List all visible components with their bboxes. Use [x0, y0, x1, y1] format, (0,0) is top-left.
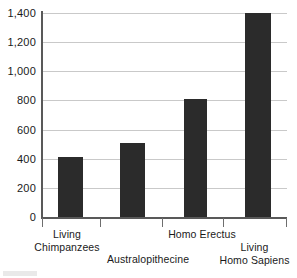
- y-tick-label-1200: 1,200: [0, 37, 36, 48]
- category-label-line-1: Australopithecine: [88, 253, 208, 266]
- y-tick-label-0: 0: [0, 212, 36, 223]
- category-label-line-1: Homo Erectus: [152, 228, 252, 241]
- category-label-living-homo-sapiens: Living Homo Sapiens: [212, 241, 297, 266]
- page-edge-artifact: [3, 271, 37, 276]
- bar-australopithecine: [120, 143, 145, 217]
- x-tick-2: [162, 218, 163, 227]
- x-tick-3: [223, 218, 224, 227]
- y-tick-label-600: 600: [0, 125, 36, 136]
- bar-chart: 1,400 1,200 1,000 800 600 400 200 0: [0, 0, 297, 278]
- y-tick-label-200: 200: [0, 183, 36, 194]
- y-axis-line: [41, 11, 43, 219]
- y-tick-label-800: 800: [0, 95, 36, 106]
- x-tick-1: [100, 218, 101, 227]
- bar-homo-erectus: [184, 99, 207, 217]
- x-tick-0: [42, 218, 43, 227]
- category-label-line-1: Living: [212, 241, 297, 254]
- category-label-homo-erectus: Homo Erectus: [152, 228, 252, 241]
- bar-living-homo-sapiens: [245, 13, 271, 217]
- x-tick-4: [286, 218, 287, 227]
- category-label-australopithecine: Australopithecine: [88, 253, 208, 266]
- bar-living-chimpanzees: [58, 157, 83, 217]
- category-label-living-chimpanzees: Living Chimpanzees: [26, 228, 108, 253]
- y-tick-label-1400: 1,400: [0, 8, 36, 19]
- plot-area: [42, 13, 287, 217]
- x-axis-line: [41, 217, 287, 219]
- y-tick-label-1000: 1,000: [0, 66, 36, 77]
- y-tick-label-400: 400: [0, 154, 36, 165]
- category-label-line-2: Chimpanzees: [26, 241, 108, 254]
- category-label-line-2: Homo Sapiens: [212, 254, 297, 267]
- category-label-line-1: Living: [26, 228, 108, 241]
